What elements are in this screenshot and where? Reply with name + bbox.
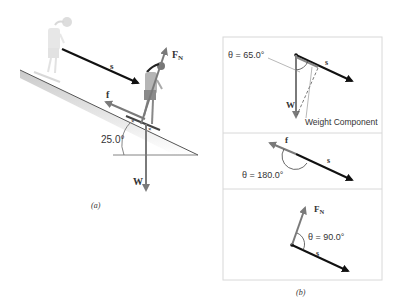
friction-label: f: [285, 135, 289, 145]
displacement-label: s: [325, 58, 328, 67]
displacement-arrow: [296, 55, 352, 81]
theta-arc: [282, 149, 307, 169]
panel-b-frame: [223, 37, 382, 280]
diagram-friction-180: f s θ = 180.0°: [242, 135, 352, 180]
displacement-arrow: [62, 49, 138, 83]
figure-canvas: s × × f FN W 25.0° (a): [0, 0, 397, 306]
friction-arrow: [270, 143, 296, 154]
weight-label: W: [286, 100, 295, 110]
weight-label: W: [133, 176, 143, 187]
theta-label: θ = 65.0°: [228, 50, 265, 60]
normal-force-arrow: [292, 208, 305, 245]
svg-text:×: ×: [131, 118, 135, 124]
svg-text:×: ×: [148, 126, 152, 132]
normal-force-label: FN: [172, 49, 183, 62]
panel-a-caption: (a): [91, 201, 101, 210]
panel-b-caption: (b): [296, 288, 306, 297]
normal-force-arrow: [141, 49, 166, 124]
displacement-arrow: [296, 154, 352, 180]
incline-angle-label: 25.0°: [101, 134, 124, 145]
panel-b: s W θ = 65.0° Weight Component f s θ = 1…: [223, 37, 382, 297]
weight-component-arrow: [296, 57, 318, 67]
diagram-normal-90: FN s θ = 90.0°: [290, 204, 348, 271]
normal-force-label: FN: [314, 204, 325, 215]
weight-component-label: Weight Component: [305, 117, 378, 127]
displacement-arrow: [292, 245, 348, 271]
skater-start-figure: [34, 17, 72, 82]
theta-label: θ = 180.0°: [242, 170, 284, 180]
diagram-weight-65: s W θ = 65.0° Weight Component: [228, 50, 378, 127]
projection-dashed-line: [297, 68, 318, 115]
displacement-label: s: [110, 61, 114, 71]
displacement-label: s: [327, 156, 330, 165]
displacement-label: s: [316, 249, 319, 258]
theta-label: θ = 90.0°: [308, 232, 345, 242]
panel-a: s × × f FN W 25.0° (a): [20, 17, 198, 210]
friction-label: f: [106, 89, 110, 100]
